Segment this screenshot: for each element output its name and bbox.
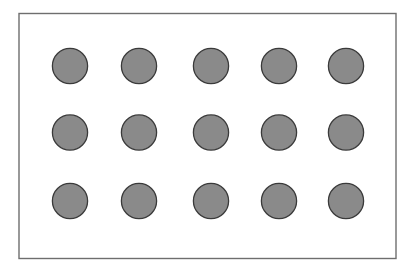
circle-r3c2 <box>121 183 156 218</box>
circle-r3c5 <box>328 183 363 218</box>
circle-r2c2 <box>121 115 156 150</box>
circle-r1c4 <box>261 48 296 83</box>
circle-r1c5 <box>328 48 363 83</box>
circle-r2c4 <box>261 115 296 150</box>
circle-r3c3 <box>193 183 228 218</box>
circle-r1c2 <box>121 48 156 83</box>
circle-r3c4 <box>261 183 296 218</box>
circle-r1c1 <box>52 48 87 83</box>
circle-r2c5 <box>328 115 363 150</box>
figure-container <box>0 0 415 275</box>
circle-r1c3 <box>193 48 228 83</box>
circle-r2c3 <box>193 115 228 150</box>
circle-r2c1 <box>52 115 87 150</box>
figure-canvas <box>0 0 415 275</box>
circle-r3c1 <box>52 183 87 218</box>
